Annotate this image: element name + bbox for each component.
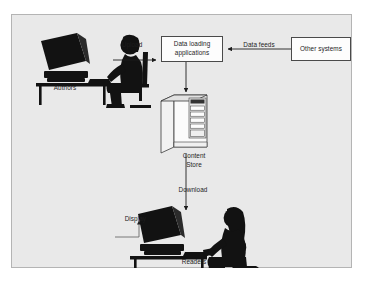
content-store-tower (161, 95, 207, 153)
edge-label-download: Download (171, 186, 215, 194)
node-label: Other systems (300, 45, 342, 54)
page-bleed-text (0, 0, 375, 6)
edge-label-display: Display (116, 215, 146, 223)
diagram-figure: Data loading applications Other systems … (0, 0, 375, 285)
edge-label-data-feeds: Data feeds (233, 41, 285, 49)
display-callout-leader (115, 221, 139, 237)
node-label-content-store: Content Store (170, 152, 218, 169)
node-label-readers: Readers (170, 258, 218, 267)
node-label: Data loading applications (174, 40, 211, 57)
node-data-loading-applications[interactable]: Data loading applications (161, 36, 223, 62)
node-other-systems[interactable]: Other systems (291, 37, 351, 61)
node-label-authors: Authors (36, 84, 94, 93)
edge-label-upload: Upload (110, 41, 154, 49)
